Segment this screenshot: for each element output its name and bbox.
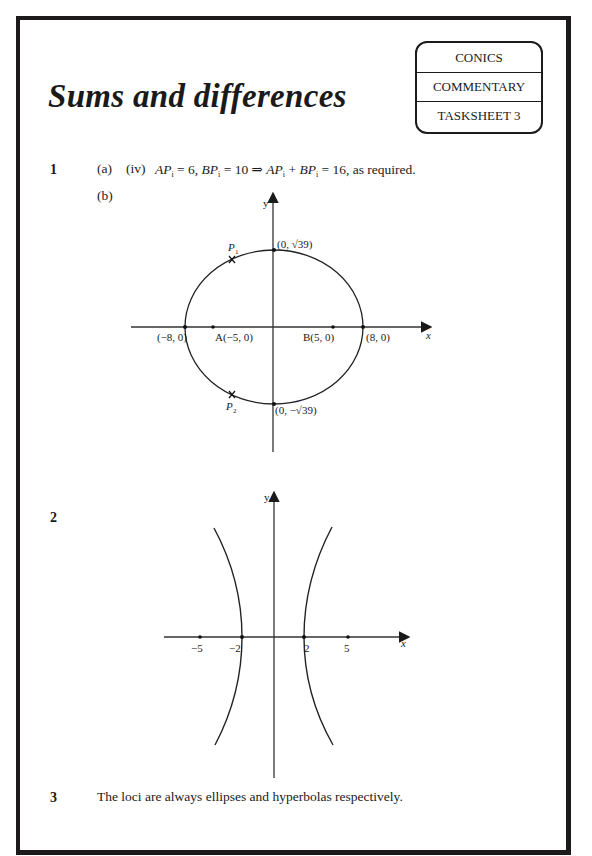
x-axis-label: x — [400, 637, 406, 649]
tick-label-5: 5 — [344, 642, 350, 654]
label-top: (0, √39) — [277, 238, 313, 251]
y-axis-label: y — [264, 491, 270, 503]
ellipse-graph: y x (−8, 0) (8, 0) A(−5, 0) B(5, 0) (0, … — [131, 194, 431, 452]
tick-5 — [346, 635, 350, 639]
hyperbola-right-branch — [304, 527, 333, 745]
label-left-vertex: (−8, 0) — [157, 331, 187, 344]
point-left-vertex — [183, 325, 187, 329]
point-focus-b — [331, 325, 335, 329]
label-p2-sub: 2 — [233, 407, 237, 415]
figures: y x (−8, 0) (8, 0) A(−5, 0) B(5, 0) (0, … — [0, 0, 592, 856]
tick-minus2 — [240, 635, 244, 639]
label-right-vertex: (8, 0) — [366, 331, 390, 344]
tick-label-minus5: −5 — [191, 642, 203, 654]
label-p2: P — [225, 400, 233, 412]
hyperbola-graph: y x −5 −2 2 5 — [164, 491, 408, 778]
tick-label-minus2: −2 — [229, 642, 241, 654]
label-p1-sub: 1 — [235, 248, 239, 256]
y-axis-label: y — [263, 197, 269, 209]
tick-minus5 — [198, 635, 202, 639]
point-top — [272, 248, 276, 252]
label-focus-b: B(5, 0) — [303, 331, 335, 344]
point-right-vertex — [361, 325, 365, 329]
label-focus-a: A(−5, 0) — [215, 331, 253, 344]
label-bottom: (0, −√39) — [275, 404, 317, 417]
x-axis-label: x — [425, 329, 431, 341]
label-p1: P — [227, 241, 235, 253]
tick-2 — [302, 635, 306, 639]
tick-label-2: 2 — [304, 642, 310, 654]
point-focus-a — [211, 325, 215, 329]
